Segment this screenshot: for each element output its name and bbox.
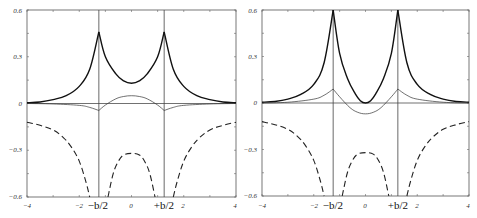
y-tick-label: −0.3 [9,146,23,154]
right-plot-panel: 0.6 0.3 0 −0.3 −0.6 −4 −2 0 2 4 −b/2 +b/… [244,7,471,211]
plus-b-half-label: +b/2 [388,199,408,211]
plot-curves [27,10,236,197]
x-tick-label: 0 [363,202,367,210]
left-plot-panel: 0.6 0.3 0 −0.3 −0.6 −4 −2 0 2 4 −b/2 +b/… [9,7,238,211]
x-tick-label: 4 [466,202,470,210]
dashed-curve [173,122,236,197]
minus-b-half-label: −b/2 [88,199,108,211]
thick-solid-curve [398,10,469,102]
y-tick-label: 0 [19,100,23,108]
minus-b-half-label: −b/2 [323,199,343,211]
figure: 0.6 0.3 0 −0.3 −0.6 −4 −2 0 2 4 −b/2 +b/… [0,0,477,218]
dashed-curve [407,122,469,196]
thick-solid-curve [27,32,99,103]
x-tick-label: 4 [233,202,237,210]
x-tick-label: −4 [23,202,32,210]
dashed-curve [262,122,324,196]
x-tick-label: −2 [75,202,84,210]
thin-solid-curve [27,104,99,111]
y-tick-label: 0 [254,99,258,107]
y-tick-label: 0.6 [248,7,257,15]
y-tick-label: 0.6 [13,7,22,15]
thick-solid-curve [333,10,398,103]
x-tick-label: 2 [415,202,419,210]
x-tick-label: 2 [181,202,185,210]
x-tick-label: 0 [129,202,133,210]
y-tick-label: −0.3 [244,146,258,154]
y-tick-label: 0.3 [248,53,257,61]
thin-solid-curve [164,104,236,111]
thin-solid-curve [99,96,164,111]
thin-solid-curve [333,89,398,114]
x-tick-label: −4 [258,202,267,210]
dashed-curve [342,153,389,196]
thick-solid-curve [164,32,236,103]
y-tick-label: −0.6 [244,192,258,200]
thick-solid-curve [262,10,333,102]
plus-b-half-label: +b/2 [154,199,174,211]
dashed-curve [108,153,155,197]
plot-curves [262,10,469,196]
dashed-curve [27,122,90,197]
x-tick-label: −2 [310,202,319,210]
y-tick-label: −0.6 [9,193,23,201]
thick-solid-curve [99,32,164,83]
y-tick-label: 0.3 [13,53,22,61]
